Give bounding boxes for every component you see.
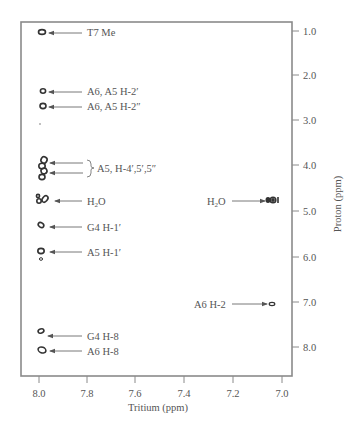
y-axis-title: Proton (ppm) (332, 175, 344, 232)
label-h2o-right: H2O (207, 196, 226, 209)
brace (87, 160, 94, 177)
y-tick-label: 3.0 (303, 115, 316, 126)
peak-g4-h8 (37, 328, 44, 334)
x-tick-label: 7.2 (226, 388, 239, 399)
x-tick-label: 7.6 (128, 388, 141, 399)
y-axis (292, 31, 299, 347)
y-tick-label: 1.0 (303, 26, 316, 37)
peak-a6-h8 (37, 346, 46, 354)
label-a5-h1p: A5 H-1′ (87, 247, 121, 258)
label-a6a5-h2pp: A6, A5 H-2″ (87, 101, 141, 112)
peak-small (39, 123, 40, 124)
peak-a5-h45 (39, 156, 48, 180)
label-h2o-left: H2O (87, 196, 106, 209)
annotation-arrows (48, 33, 267, 351)
peak-g4-h1p (37, 221, 44, 228)
label-t7-me: T7 Me (87, 27, 116, 38)
label-g4-h8: G4 H-8 (87, 331, 119, 342)
label-g4-h1p: G4 H-1′ (87, 222, 121, 233)
plot-frame (21, 22, 292, 376)
nmr-2d-spectrum: 8.0 7.8 7.6 7.4 7.2 7.0 Tritium (ppm) 1.… (0, 0, 354, 423)
y-tick-label: 5.0 (303, 206, 316, 217)
peak-a6a5-h2p (40, 89, 45, 93)
peak-t7-me (39, 30, 46, 35)
peak-a6a5-h2pp (40, 103, 46, 108)
y-tick-label: 6.0 (303, 252, 316, 263)
label-a6-h2: A6 H-2 (194, 299, 226, 310)
label-a6-h8: A6 H-8 (87, 346, 119, 357)
x-tick-label: 8.0 (32, 388, 45, 399)
y-tick-label: 7.0 (303, 297, 316, 308)
peak-a5-h1p (38, 248, 44, 253)
x-tick-label: 7.0 (275, 388, 288, 399)
peak-h2o-right (266, 197, 278, 203)
label-a6a5-h2p: A6, A5 H-2′ (87, 86, 139, 97)
x-tick-label: 7.4 (177, 388, 191, 399)
peak-a5-h1p-minor (39, 258, 42, 261)
x-axis-title: Tritium (ppm) (128, 402, 188, 414)
peak-h2o-left (36, 194, 49, 203)
peaks (36, 30, 278, 354)
label-a5-h45: A5, H-4′,5′,5″ (97, 163, 156, 174)
y-tick-label: 2.0 (303, 70, 316, 81)
y-tick-label: 4.0 (303, 160, 316, 171)
peak-a6-h2 (269, 302, 275, 305)
y-tick-label: 8.0 (303, 342, 316, 353)
x-axis (39, 376, 282, 383)
x-tick-label: 7.8 (80, 388, 93, 399)
